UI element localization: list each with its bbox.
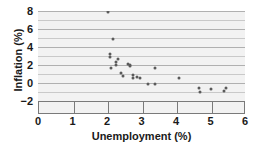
data-point	[222, 90, 225, 93]
y-tick-label: 4	[27, 41, 33, 53]
gridline	[38, 92, 245, 93]
data-point	[117, 57, 120, 60]
x-axis-label: Unemployment (%)	[38, 130, 245, 142]
data-point	[115, 64, 118, 67]
gridline	[38, 74, 245, 75]
x-axis-tick-labels: 0123456	[0, 115, 264, 131]
y-tick-label: 2	[27, 59, 33, 71]
y-tick-label: −2	[20, 95, 33, 107]
data-point	[110, 66, 113, 69]
gridline	[38, 56, 245, 57]
data-point	[111, 37, 114, 40]
data-point	[199, 91, 202, 94]
x-tick-mark	[143, 102, 144, 113]
data-point	[121, 74, 124, 77]
x-tick-label: 0	[35, 115, 41, 127]
gridline	[38, 65, 245, 66]
data-point	[153, 66, 156, 69]
x-tick-mark	[74, 102, 75, 113]
x-tick-label: 3	[138, 115, 144, 127]
y-tick-label: 8	[27, 5, 33, 17]
data-point	[132, 76, 135, 79]
gridline	[38, 20, 245, 21]
x-tick-mark	[212, 102, 213, 113]
data-point	[209, 88, 212, 91]
gridline	[38, 83, 245, 84]
x-tick-label: 6	[242, 115, 248, 127]
data-point	[198, 87, 201, 90]
x-tick-label: 5	[207, 115, 213, 127]
data-point	[108, 55, 111, 58]
x-tick-mark	[177, 102, 178, 113]
gridline	[38, 38, 245, 39]
plot-area	[38, 11, 245, 101]
data-point	[177, 76, 180, 79]
y-tick-label: 6	[27, 23, 33, 35]
gridline	[38, 29, 245, 30]
data-point	[225, 86, 228, 89]
data-point	[146, 82, 149, 85]
data-point	[138, 76, 141, 79]
gridline	[38, 47, 245, 48]
x-tick-label: 2	[104, 115, 110, 127]
data-point	[129, 64, 132, 67]
data-point	[106, 11, 109, 13]
y-tick-label: 0	[27, 77, 33, 89]
x-tick-label: 4	[173, 115, 179, 127]
scatter-chart: Inflation (%) −202468 0123456 Unemployme…	[0, 0, 264, 148]
x-axis-band	[38, 101, 245, 114]
x-tick-mark	[108, 102, 109, 113]
gridline	[38, 11, 245, 12]
data-point	[154, 82, 157, 85]
x-tick-label: 1	[69, 115, 75, 127]
